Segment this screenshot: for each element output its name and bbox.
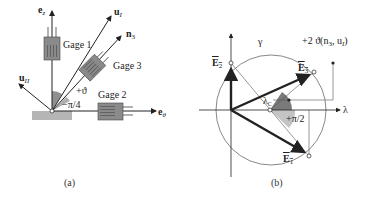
gamma-label: γ — [257, 36, 263, 47]
gage2-label: Gage 2 — [98, 89, 127, 100]
ez-label: ez — [38, 4, 45, 17]
lambda-c-label: λC — [263, 95, 272, 107]
uII-vector — [19, 84, 52, 111]
point-E2 — [229, 61, 233, 65]
caption-b: (b) — [271, 177, 283, 189]
point-E1 — [307, 154, 311, 158]
gage1-label: Gage 1 — [63, 39, 92, 50]
sector-dot — [287, 98, 290, 101]
n3-label: n3 — [126, 28, 136, 41]
caption-a: (a) — [64, 177, 75, 189]
E1-label: E1 — [283, 153, 294, 166]
lambda-label: λ — [343, 104, 348, 115]
figure-a: ez uI n3 uII eθ Gage 1 Gage 3 Gage 2 +ϑ … — [19, 4, 166, 189]
figure-b: γ λ E2 E3 E1 λC +π/2 +2 ϑ(n3, uI) (b) — [199, 34, 348, 189]
pi4-angle-label: −π/4 — [62, 99, 80, 110]
diameter-E3 — [270, 72, 314, 110]
E2-label: E2 — [212, 57, 223, 70]
diagram-canvas: ez uI n3 uII eθ Gage 1 Gage 3 Gage 2 +ϑ … — [0, 0, 368, 209]
point-E3 — [312, 70, 316, 74]
gage3-label: Gage 3 — [113, 60, 142, 71]
theta-angle-label: +ϑ — [76, 85, 87, 96]
origin-point — [50, 109, 54, 113]
E3-label: E3 — [298, 62, 309, 75]
etheta-label: eθ — [158, 106, 166, 119]
uII-label: uII — [19, 72, 30, 85]
annotation-dot — [331, 61, 334, 64]
center-point — [268, 108, 272, 112]
annotation-label: +2 ϑ(n3, uI) — [302, 35, 348, 48]
pi2-angle-label: +π/2 — [286, 113, 304, 124]
uI-label: uI — [114, 6, 123, 19]
